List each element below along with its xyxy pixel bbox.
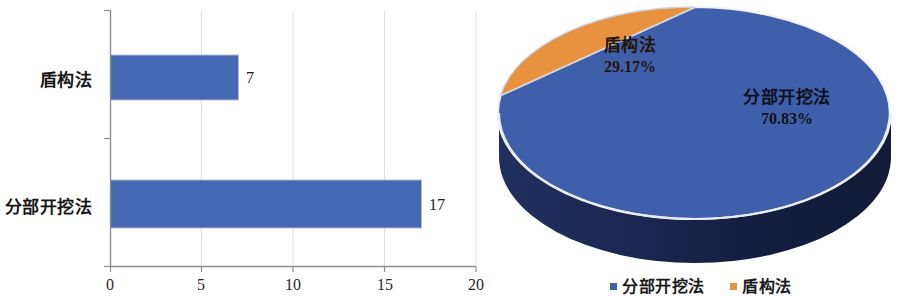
x-tick-label-2: 10 — [285, 276, 301, 294]
bar-chart-panel: 盾构法 分部开挖法 7 17 0 5 10 15 20 — [0, 0, 490, 298]
bar-category-label-1: 分部开挖法 — [5, 193, 93, 218]
figure-root: 盾构法 分部开挖法 7 17 0 5 10 15 20 — [0, 0, 912, 298]
legend-item-shield-method[interactable]: 盾构法 — [730, 273, 791, 297]
pie-slice-label-partial-excavation: 分部开挖法 70.83% — [743, 88, 831, 128]
pie-slice-name-partial-excavation: 分部开挖法 — [743, 88, 831, 109]
pie-slice-pct-shield: 29.17% — [604, 57, 657, 77]
bar-shield-method — [111, 55, 239, 100]
bar-value-label-0: 7 — [246, 69, 254, 87]
pie-chart-plot-area — [490, 0, 912, 298]
pie-legend: 分部开挖法 盾构法 — [490, 273, 912, 297]
pie-chart-panel: 盾构法 29.17% 分部开挖法 70.83% 分部开挖法 盾构法 — [490, 0, 912, 298]
legend-label-partial-excavation: 分部开挖法 — [622, 273, 704, 297]
pie-slice-pct-partial-excavation: 70.83% — [743, 109, 831, 129]
bar-series — [111, 55, 422, 228]
pie-slice-name-shield: 盾构法 — [604, 36, 657, 57]
bar-chart-plot-area — [0, 0, 490, 298]
bar-category-label-0: 盾构法 — [40, 66, 93, 91]
x-tick-label-1: 5 — [197, 276, 205, 294]
pie-slice-label-shield: 盾构法 29.17% — [604, 36, 657, 76]
x-tick-label-4: 20 — [468, 276, 484, 294]
axes — [104, 10, 476, 272]
x-tick-label-3: 15 — [377, 276, 393, 294]
legend-item-partial-excavation[interactable]: 分部开挖法 — [610, 273, 704, 297]
legend-swatch-icon-shield-method — [730, 283, 737, 290]
bar-value-label-1: 17 — [429, 196, 445, 214]
legend-label-shield-method: 盾构法 — [742, 273, 791, 297]
x-tick-label-0: 0 — [106, 276, 114, 294]
legend-swatch-icon-partial-excavation — [610, 283, 617, 290]
bar-partial-excavation-method — [111, 180, 422, 228]
